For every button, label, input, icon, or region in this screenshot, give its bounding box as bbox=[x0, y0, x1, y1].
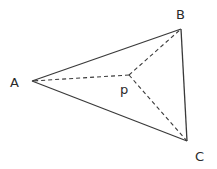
vertex-label-a: A bbox=[10, 75, 19, 90]
edge-ab bbox=[32, 29, 181, 81]
vertex-label-c: C bbox=[195, 149, 204, 164]
dashed-segment-pb bbox=[129, 29, 181, 75]
dashed-segment-pc bbox=[129, 75, 187, 141]
vertex-label-b: B bbox=[176, 7, 185, 22]
edge-ca bbox=[32, 81, 187, 141]
edge-bc bbox=[181, 29, 187, 141]
interior-point-label-p: p bbox=[120, 82, 128, 97]
triangle-diagram: A B C p bbox=[0, 0, 217, 169]
